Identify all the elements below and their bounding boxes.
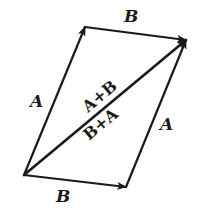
- vector-addition-diagram: B A A B A+B B+A: [0, 0, 203, 209]
- label-b-bottom: B: [55, 186, 70, 206]
- label-a-left: A: [28, 91, 43, 111]
- vector-b-top-arrow: [85, 27, 186, 40]
- label-a-right: A: [158, 114, 173, 134]
- vector-b-bottom-arrow: [24, 175, 126, 187]
- label-b-top: B: [123, 6, 138, 26]
- vector-a-right-arrow: [126, 40, 186, 187]
